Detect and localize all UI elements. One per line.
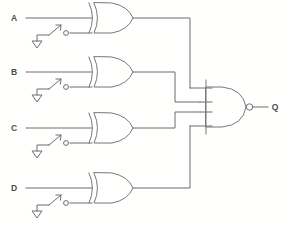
switch-stem-a	[37, 35, 49, 41]
xor-gate-a-body	[94, 3, 133, 33]
spst-switch-d[interactable]	[37, 195, 68, 211]
switch-stem-c	[37, 145, 49, 151]
input-label-d: D	[11, 183, 17, 193]
input-row-d	[26, 126, 190, 218]
ground-symbol-d	[32, 211, 42, 218]
xor-gate-d[interactable]	[89, 173, 133, 203]
ground-symbol-c	[32, 151, 42, 158]
switch-arm-b	[49, 79, 61, 89]
switch-terminal-c	[64, 141, 69, 146]
switch-arm-d	[49, 195, 61, 205]
xor-gate-d-body	[94, 173, 133, 203]
input-row-b	[26, 57, 200, 102]
input-label-a: A	[11, 13, 17, 23]
xor-gate-a[interactable]	[89, 3, 133, 33]
spst-switch-b[interactable]	[37, 79, 68, 95]
output-label-q: Q	[272, 102, 279, 112]
switch-stem-b	[37, 89, 49, 95]
spst-switch-a[interactable]	[37, 25, 68, 41]
inversion-bubble	[246, 104, 252, 110]
xor-gate-b-body	[94, 57, 133, 87]
xor-gate-b[interactable]	[89, 57, 133, 87]
xor-gate-c-body	[94, 113, 133, 143]
nand-gate-body	[206, 87, 246, 127]
input-row-c	[26, 112, 200, 158]
input-label-c: C	[11, 123, 17, 133]
ground-symbol-a	[32, 41, 42, 48]
spst-switch-c[interactable]	[37, 135, 68, 151]
xor-gate-c[interactable]	[89, 113, 133, 143]
xor-a-output-wire	[133, 18, 190, 88]
input-row-a	[26, 3, 190, 88]
circuit-canvas: A B C D Q	[0, 0, 285, 236]
switch-arm-a	[49, 25, 61, 35]
switch-terminal-b	[64, 85, 69, 90]
logic-circuit-diagram: A B C D Q	[0, 0, 285, 236]
switch-arm-c	[49, 135, 61, 145]
switch-stem-d	[37, 205, 49, 211]
switch-terminal-d	[64, 201, 69, 206]
switch-terminal-a	[64, 31, 69, 36]
xor-d-output-wire	[133, 126, 190, 188]
nand-gate[interactable]	[190, 80, 268, 134]
ground-symbol-b	[32, 95, 42, 102]
input-label-b: B	[11, 67, 17, 77]
